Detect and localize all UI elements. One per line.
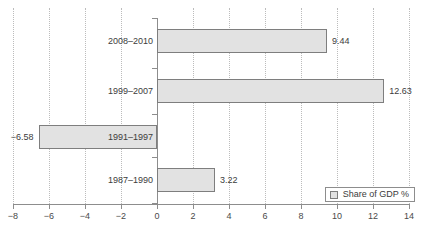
x-axis-tick-label: 8 [298, 211, 303, 221]
gridline [85, 8, 86, 204]
gridline [13, 8, 14, 204]
chart-legend[interactable]: Share of GDP % [325, 187, 415, 202]
legend-swatch-share-of-gdp [330, 191, 338, 199]
x-axis-tick-label: −4 [80, 211, 90, 221]
y-axis-tick [152, 114, 157, 115]
x-axis-tick-label: −2 [116, 211, 126, 221]
x-axis-tick-label: −8 [8, 211, 18, 221]
y-axis-tick [152, 203, 157, 204]
x-axis-tick-label: 12 [368, 211, 378, 221]
plot-area: −8−6−4−2024681012142008–20109.441999–200… [0, 0, 424, 239]
gridline [409, 8, 410, 204]
x-axis-tick-label: 6 [262, 211, 267, 221]
x-axis-tick-label: 0 [154, 211, 159, 221]
category-label: 1987–1990 [108, 175, 153, 185]
x-axis-tick-label: 14 [404, 211, 414, 221]
value-label: 9.44 [332, 36, 350, 46]
x-axis-line [13, 204, 409, 205]
x-axis-tick [409, 204, 410, 209]
x-axis-tick-label: 2 [190, 211, 195, 221]
y-axis-tick [152, 157, 157, 158]
category-label: 1999–2007 [108, 86, 153, 96]
bar-chart: −8−6−4−2024681012142008–20109.441999–200… [0, 0, 424, 239]
legend-label-share-of-gdp: Share of GDP % [343, 190, 409, 199]
value-label: −6.58 [11, 132, 34, 142]
y-axis-tick [152, 18, 157, 19]
gridline [49, 8, 50, 204]
bar-2008-2010[interactable] [157, 29, 327, 53]
value-label: 12.63 [389, 86, 412, 96]
y-axis-tick [152, 68, 157, 69]
category-label: 1991–1997 [108, 132, 153, 142]
x-axis-tick-label: 10 [332, 211, 342, 221]
bar-1999-2007[interactable] [157, 79, 384, 103]
x-axis-tick-label: −6 [44, 211, 54, 221]
bar-1987-1990[interactable] [157, 168, 215, 192]
value-label: 3.22 [220, 175, 238, 185]
x-axis-tick-label: 4 [226, 211, 231, 221]
gridline [373, 8, 374, 204]
category-label: 2008–2010 [108, 36, 153, 46]
